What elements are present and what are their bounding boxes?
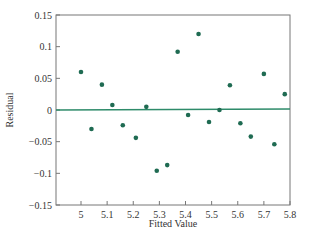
x-tick-label: 5.6 <box>232 209 245 220</box>
data-point <box>272 142 277 147</box>
data-point <box>175 49 180 54</box>
data-point <box>238 121 243 126</box>
data-point <box>100 82 105 87</box>
residual-plot: 0.150.10.050−0.05−0.1−0.15 55.15.25.35.4… <box>0 0 311 241</box>
x-tick-label: 5.1 <box>101 209 114 220</box>
data-points <box>79 32 287 173</box>
y-tick-label: 0.1 <box>40 41 53 52</box>
y-tick-label: 0.05 <box>35 73 53 84</box>
x-tick-label: 5.7 <box>258 209 271 220</box>
y-tick-label: −0.05 <box>29 136 52 147</box>
data-point <box>262 72 267 77</box>
x-tick-label: 5.5 <box>205 209 218 220</box>
y-tick-label: −0.1 <box>34 168 52 179</box>
data-point <box>196 32 201 37</box>
data-point <box>79 70 84 75</box>
x-axis-label: Fitted Value <box>149 218 198 229</box>
y-tick-label: 0.15 <box>35 10 53 21</box>
y-axis-ticks: 0.150.10.050−0.05−0.1−0.15 <box>29 10 60 211</box>
data-point <box>121 123 126 128</box>
x-tick-label: 5.2 <box>127 209 140 220</box>
data-point <box>144 105 149 110</box>
data-point <box>186 113 191 118</box>
data-point <box>282 92 287 97</box>
y-axis-label: Residual <box>4 92 15 127</box>
data-point <box>110 103 115 108</box>
x-tick-label: 5 <box>79 209 84 220</box>
data-point <box>134 136 139 141</box>
y-tick-label: −0.15 <box>29 200 52 211</box>
zero-reference-line <box>56 109 290 110</box>
y-tick-label: 0 <box>47 105 52 116</box>
data-point <box>207 120 212 125</box>
data-point <box>228 83 233 88</box>
x-tick-label: 5.8 <box>284 209 297 220</box>
data-point <box>89 127 94 132</box>
data-point <box>165 163 170 168</box>
data-point <box>154 169 159 174</box>
data-point <box>249 134 254 139</box>
data-point <box>217 108 222 113</box>
